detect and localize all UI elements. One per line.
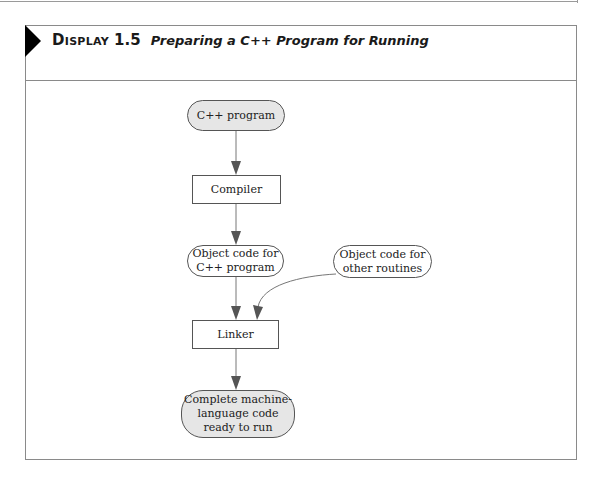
node-label: Linker xyxy=(217,328,253,342)
node-label: C++ program xyxy=(197,109,276,123)
node-label-line1: Object code for xyxy=(340,248,426,262)
node-linker: Linker xyxy=(192,320,279,349)
arrow-other-to-linker xyxy=(258,274,336,307)
node-object-code-cpp: Object code for C++ program xyxy=(187,245,284,277)
flow-edges xyxy=(0,0,603,477)
node-compiler: Compiler xyxy=(192,175,281,204)
node-label-line2: C++ program xyxy=(196,261,275,275)
node-label-line2: language code xyxy=(197,407,278,421)
node-label-line1: Object code for xyxy=(193,247,279,261)
node-object-code-other: Object code for other routines xyxy=(333,245,432,278)
node-cpp-program: C++ program xyxy=(187,100,285,131)
node-label-line2: other routines xyxy=(343,262,423,276)
node-machine-code: Complete machine- language code ready to… xyxy=(181,390,295,438)
node-label-line1: Complete machine- xyxy=(184,393,292,407)
node-label-line3: ready to run xyxy=(203,421,272,435)
node-label: Compiler xyxy=(211,183,262,197)
